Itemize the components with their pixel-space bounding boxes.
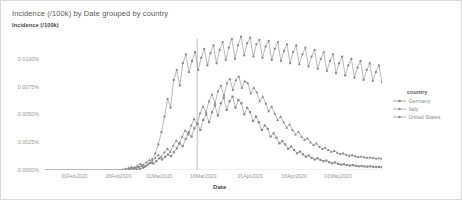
legend-title: country (407, 89, 440, 95)
x-tick-label: 16Feb2020 (105, 173, 131, 179)
chart-container: Incidence (/100k) by Date grouped by cou… (0, 0, 462, 200)
page-title: Incidence (/100k) by Date grouped by cou… (12, 9, 168, 18)
x-tick-label: 01May2020 (324, 173, 351, 179)
series-lines (45, 31, 382, 170)
x-tick-label: 16Mar2020 (190, 173, 216, 179)
x-tick-label: 01Apr2020 (237, 173, 262, 179)
y-tick-label: 0.0100% (5, 56, 39, 62)
y-tick-label: 0.0075% (5, 84, 39, 90)
legend-item-italy[interactable]: Italy (393, 106, 440, 112)
x-tick-label: 01Mar2020 (146, 173, 172, 179)
y-tick-label: 0.0025% (5, 139, 39, 145)
legend-item-label: United States (409, 114, 441, 120)
legend-item-label: Italy (409, 106, 419, 112)
series-germany (45, 96, 382, 170)
x-axis-title: Date (213, 184, 226, 190)
legend-swatch-icon (393, 98, 406, 104)
x-tick-label: 01Feb2020 (61, 173, 87, 179)
legend: country GermanyItalyUnited States (393, 89, 440, 122)
y-axis-title: Incidence (/100k) (12, 22, 59, 28)
legend-swatch-icon (393, 106, 406, 112)
legend-swatch-icon (393, 114, 406, 120)
plot-area (45, 31, 382, 170)
legend-item-united-states[interactable]: United States (393, 114, 440, 120)
legend-item-germany[interactable]: Germany (393, 98, 440, 104)
legend-item-label: Germany (409, 98, 431, 104)
y-tick-label: 0.0050% (5, 111, 39, 117)
x-tick-label: 16Apr2020 (281, 173, 306, 179)
series-united-states (45, 35, 382, 170)
y-tick-label: 0.0000% (5, 167, 39, 173)
series-italy (45, 75, 382, 170)
